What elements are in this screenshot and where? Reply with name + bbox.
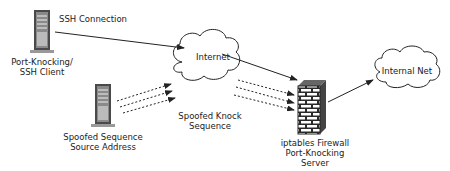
ssh-connection-edge xyxy=(55,32,184,48)
spoofer-label-line2: Source Address xyxy=(58,142,148,152)
firewall-label-line1: iptables Firewall xyxy=(270,138,360,148)
spoofer-server-icon xyxy=(91,84,115,127)
firewall-label: iptables Firewall Port-Knocking Server xyxy=(270,138,360,168)
client-label: Port-Knocking/ SSH Client xyxy=(4,57,80,77)
ssh-connection-label: SSH Connection xyxy=(59,14,127,24)
internal-net-label: Internal Net xyxy=(372,66,442,76)
client-label-line1: Port-Knocking/ xyxy=(4,57,80,67)
firewall-label-line2: Port-Knocking xyxy=(270,148,360,158)
spoofer-label-line1: Spoofed Sequence xyxy=(58,132,148,142)
spoofed-knock-line1: Spoofed Knock xyxy=(165,111,255,121)
client-label-line2: SSH Client xyxy=(4,67,80,77)
spoofed-knock-line2: Sequence xyxy=(165,121,255,131)
internet-label: Internet xyxy=(188,52,238,62)
port-knocking-diagram: SSH Connection Port-Knocking/ SSH Client… xyxy=(0,0,450,171)
spoofed-knock-label: Spoofed Knock Sequence xyxy=(165,111,255,131)
client-server-icon xyxy=(30,10,54,53)
firewall-label-line3: Server xyxy=(270,158,360,168)
spoofer-label: Spoofed Sequence Source Address xyxy=(58,132,148,152)
firewall-to-internal-edge xyxy=(328,80,373,102)
spoofed-knock-edges-1 xyxy=(117,84,175,113)
spoofed-knock-edges-2 xyxy=(234,80,294,110)
firewall-icon xyxy=(298,80,326,134)
